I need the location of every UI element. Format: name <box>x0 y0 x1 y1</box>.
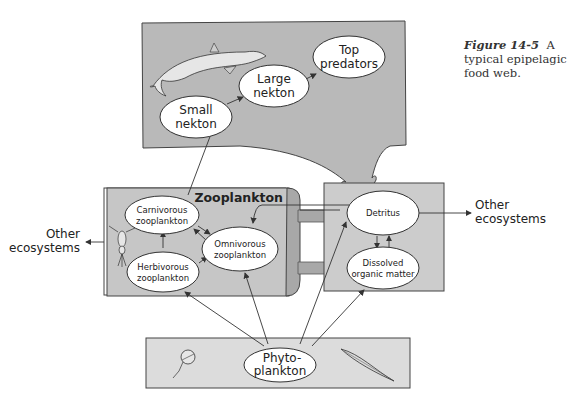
svg-text:Other: Other <box>46 227 80 241</box>
svg-text:plankton: plankton <box>254 364 307 378</box>
node-large-nekton: Large nekton <box>239 65 309 107</box>
other-ecosystems-left: Other ecosystems <box>9 227 80 255</box>
node-herbivorous-zooplankton: Herbivorous zooplankton <box>127 252 199 292</box>
node-dissolved-organic-matter: Dissolved organic matter <box>347 247 419 289</box>
svg-text:zooplankton: zooplankton <box>136 216 188 226</box>
svg-text:zooplankton: zooplankton <box>214 250 266 260</box>
svg-text:ecosystems: ecosystems <box>9 241 80 255</box>
svg-text:Other: Other <box>475 198 509 212</box>
svg-text:organic matter: organic matter <box>351 269 415 279</box>
svg-text:Omnivorous: Omnivorous <box>214 239 266 249</box>
figure-label: Figure 14-5 <box>464 38 539 52</box>
svg-text:Large: Large <box>257 72 291 86</box>
svg-text:Carnivorous: Carnivorous <box>137 205 188 215</box>
node-top-predators: Top predators <box>313 36 385 78</box>
svg-text:Herbivorous: Herbivorous <box>137 262 189 272</box>
svg-text:Small: Small <box>179 103 212 117</box>
svg-text:ecosystems: ecosystems <box>475 212 546 226</box>
svg-text:Dissolved: Dissolved <box>363 258 404 268</box>
node-detritus: Detritus <box>347 191 419 235</box>
svg-text:Phyto-: Phyto- <box>263 351 302 365</box>
svg-text:nekton: nekton <box>253 86 295 100</box>
svg-text:predators: predators <box>320 57 378 71</box>
node-carnivorous-zooplankton: Carnivorous zooplankton <box>125 196 199 234</box>
svg-text:Detritus: Detritus <box>366 208 401 218</box>
other-ecosystems-right: Other ecosystems <box>475 198 546 226</box>
figure-caption: Figure 14-5 A typical epipelagic food we… <box>464 38 587 80</box>
zooplankton-title: Zooplankton <box>194 190 283 205</box>
svg-text:nekton: nekton <box>175 117 217 131</box>
node-phytoplankton: Phyto- plankton <box>244 348 316 382</box>
svg-text:zooplankton: zooplankton <box>137 273 189 283</box>
svg-text:Top: Top <box>338 43 359 57</box>
node-omnivorous-zooplankton: Omnivorous zooplankton <box>202 227 278 271</box>
node-small-nekton: Small nekton <box>160 96 232 138</box>
